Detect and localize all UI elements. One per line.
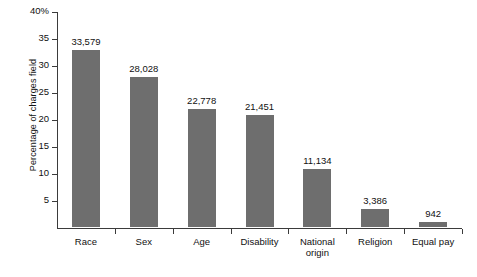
bar: 3,386 xyxy=(361,209,389,227)
y-tick-mark xyxy=(52,66,57,67)
bar-value-label: 11,134 xyxy=(303,155,331,166)
bar-value-label: 942 xyxy=(425,208,441,219)
bar: 22,778 xyxy=(188,109,216,227)
x-tick-mark xyxy=(346,229,347,234)
y-tick-label: 25 xyxy=(38,86,49,97)
y-tick-label: 30 xyxy=(38,59,49,70)
bar-value-label: 33,579 xyxy=(71,36,100,47)
y-tick-mark xyxy=(52,174,57,175)
y-tick-mark xyxy=(52,201,57,202)
y-tick-mark xyxy=(52,120,57,121)
bar: 11,134 xyxy=(303,169,331,227)
y-tick-label: 40% xyxy=(30,5,49,16)
y-tick-label: 15 xyxy=(38,140,49,151)
y-tick-mark xyxy=(52,147,57,148)
x-tick-mark xyxy=(173,229,174,234)
bar-value-label: 21,451 xyxy=(245,101,274,112)
x-tick-mark xyxy=(462,229,463,234)
y-tick-label: 5 xyxy=(44,194,49,205)
bar-value-label: 28,028 xyxy=(129,63,158,74)
y-tick-mark xyxy=(52,39,57,40)
x-tick-mark xyxy=(404,229,405,234)
y-tick-label: 20 xyxy=(38,113,49,124)
x-axis-category-line: Equal pay xyxy=(397,236,469,247)
x-tick-mark xyxy=(231,229,232,234)
bar: 21,451 xyxy=(246,115,274,227)
y-axis-line xyxy=(57,12,58,229)
y-tick-mark xyxy=(52,93,57,94)
x-axis-category-label: Equal pay xyxy=(397,236,469,247)
bar-value-label: 3,386 xyxy=(363,195,387,206)
y-tick-label: 35 xyxy=(38,32,49,43)
x-tick-mark xyxy=(115,229,116,234)
y-axis-title: Percentage of charges field xyxy=(28,20,38,210)
bar-value-label: 22,778 xyxy=(187,95,216,106)
bar: 942 xyxy=(419,222,447,227)
bar: 33,579 xyxy=(72,50,100,227)
y-tick-mark xyxy=(52,12,57,13)
y-tick-label: 10 xyxy=(38,167,49,178)
x-axis-line xyxy=(57,228,462,229)
x-axis-category-line: origin xyxy=(281,247,353,258)
bar-chart: Percentage of charges field 40%353025201… xyxy=(0,0,477,277)
plot-area: 40%3530252015105 33,57928,02822,77821,45… xyxy=(57,12,462,228)
bar: 28,028 xyxy=(130,77,158,227)
x-tick-mark xyxy=(288,229,289,234)
